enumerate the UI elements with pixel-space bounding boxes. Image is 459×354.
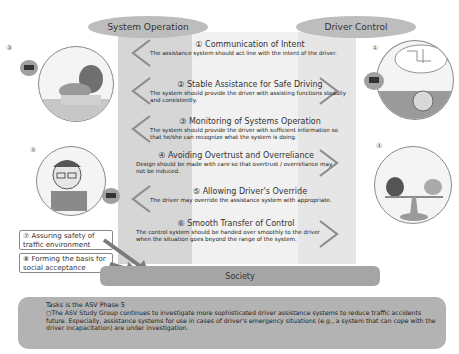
principle-title: ⑤ Allowing Driver's Override: [150, 187, 350, 197]
chevron-left-icon: [130, 76, 152, 106]
tasks-body: ○The ASV Study Group continues to invest…: [46, 309, 438, 332]
chevron-left-icon: [130, 184, 152, 214]
driver-control-header: Driver Control: [296, 16, 416, 38]
principle-title: ① Communication of Intent: [150, 40, 350, 50]
principle-body: Design should be made with care so that …: [136, 161, 336, 175]
principle-body: The system should provide the driver wit…: [150, 90, 350, 104]
principle-title: ③ Monitoring of Systems Operation: [150, 117, 350, 127]
robot-assistant-icon: [362, 70, 386, 92]
principle-5: ⑤ Allowing Driver's Override The driver …: [150, 187, 350, 204]
tasks-title: Tasks is the ASV Phase 5: [46, 301, 438, 309]
principle-title: ② Stable Assistance for Safe Driving: [150, 80, 350, 90]
principle-2: ② Stable Assistance for Safe Driving The…: [150, 80, 350, 104]
illustration-label: ①: [372, 44, 378, 52]
principle-body: The assistance system should act line wi…: [150, 50, 350, 57]
principle-3: ③ Monitoring of Systems Operation The sy…: [150, 117, 350, 141]
principle-title: ⑥ Smooth Transfer of Control: [136, 219, 336, 229]
principle-4: ④ Avoiding Overtrust and Overreliance De…: [136, 151, 336, 175]
robot-assistant-icon: [18, 58, 40, 78]
robot-assistant-icon: [100, 186, 122, 206]
principle-body: The driver may override the assistance s…: [150, 197, 350, 204]
principle-6: ⑥ Smooth Transfer of Control The control…: [136, 219, 336, 243]
driver-intent-illustration-circle: [376, 40, 454, 120]
chevron-left-icon: [130, 114, 152, 144]
illustration-label: ③: [6, 44, 12, 52]
chevron-left-icon: [130, 38, 152, 68]
tasks-box: Tasks is the ASV Phase 5 ○The ASV Study …: [18, 297, 446, 349]
principle-1: ① Communication of Intent The assistance…: [150, 40, 350, 57]
principle-body: The control system should be handed over…: [136, 229, 336, 243]
illustration-label: ④: [376, 142, 382, 150]
illustration-label: ⑤: [30, 146, 36, 154]
side-box-safety: ⑦ Assuring safety of traffic environment: [19, 230, 113, 250]
balance-illustration-circle: [374, 146, 452, 224]
side-box-social-acceptance: ⑧ Forming the basis for social acceptanc…: [19, 253, 113, 273]
principle-title: ④ Avoiding Overtrust and Overreliance: [136, 151, 336, 161]
system-operation-header: System Operation: [88, 16, 208, 38]
driver-illustration-circle: [38, 46, 114, 122]
override-illustration-circle: [36, 146, 106, 216]
principle-body: The system should provide the driver wit…: [150, 127, 350, 141]
society-bar: Society: [100, 266, 380, 286]
